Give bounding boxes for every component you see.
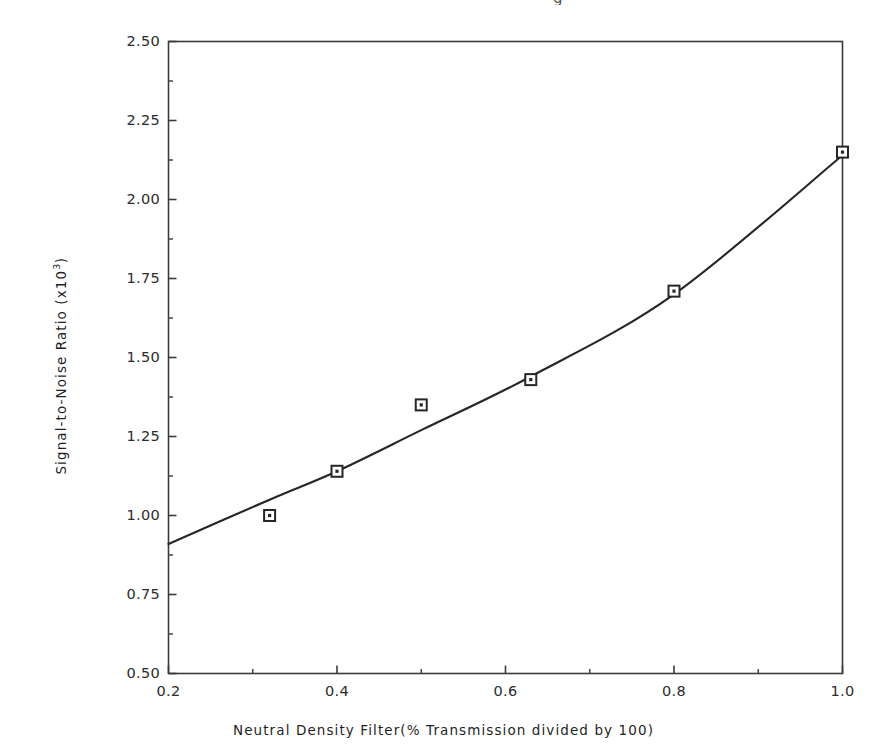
data-point-marker [669, 286, 680, 297]
axis-minor-ticks [169, 81, 759, 674]
y-axis-tick-label: 2.50 [102, 33, 160, 49]
y-axis-tick-label: 1.00 [102, 507, 160, 523]
x-axis-tick-label: 0.2 [139, 683, 199, 699]
x-axis-tick-label: 0.4 [307, 683, 367, 699]
x-axis-tick-label: 0.6 [476, 683, 536, 699]
axis-major-ticks [169, 42, 843, 674]
x-axis-tick-label: 0.8 [644, 683, 704, 699]
fitted-curve-line [169, 155, 843, 544]
data-point-marker [837, 147, 848, 158]
axes-frame [169, 42, 843, 674]
x-axis-tick-label: 1.0 [813, 683, 873, 699]
y-axis-tick-label: 1.75 [102, 270, 160, 286]
figure-container: g 0.500.751.001.251.501.752.002.252.50 0… [0, 0, 887, 752]
y-axis-tick-label: 0.50 [102, 665, 160, 681]
x-axis-title: Neutral Density Filter(% Transmission di… [0, 722, 887, 738]
y-axis-title-suffix: ) [53, 257, 69, 263]
data-point-marker [525, 374, 536, 385]
y-axis-title: Signal-to-Noise Ratio (x103) [51, 126, 69, 606]
data-point-marker [332, 466, 343, 477]
y-axis-tick-label: 1.50 [102, 349, 160, 365]
y-axis-tick-label: 2.00 [102, 191, 160, 207]
data-point-marker [416, 399, 427, 410]
fitted-curve-path [169, 155, 843, 544]
y-axis-tick-label: 1.25 [102, 428, 160, 444]
y-axis-title-text: Signal-to-Noise Ratio (x10 [53, 270, 69, 475]
y-axis-tick-label: 2.25 [102, 112, 160, 128]
y-axis-title-exponent: 3 [51, 263, 62, 269]
data-point-marker [264, 510, 275, 521]
y-axis-tick-label: 0.75 [102, 586, 160, 602]
